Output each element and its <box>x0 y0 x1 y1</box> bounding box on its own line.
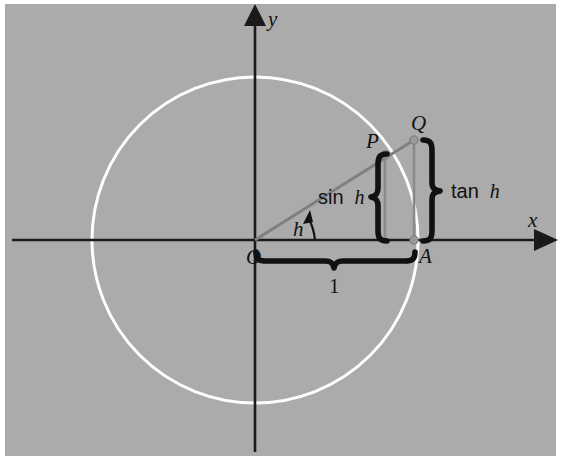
figure-root: y x O A P Q h sin h tan h 1 <box>0 0 572 470</box>
x-axis-label: x <box>527 208 538 232</box>
unit-circle-figure: y x O A P Q h sin h tan h 1 <box>0 0 572 470</box>
point-label-A: A <box>417 244 432 268</box>
point-label-O: O <box>246 245 261 269</box>
radius-length-label: 1 <box>329 274 340 298</box>
tan-function-name: tan <box>451 180 479 202</box>
point-label-P: P <box>365 129 379 153</box>
sin-h-label: sin h <box>318 186 365 208</box>
figure-panel-background <box>5 4 556 456</box>
y-axis-label: y <box>266 7 278 31</box>
point-Q-marker <box>410 136 418 144</box>
point-label-Q: Q <box>411 111 426 135</box>
tan-argument: h <box>490 180 500 202</box>
angle-label-h: h <box>293 217 304 241</box>
point-A-marker <box>410 236 418 244</box>
sin-function-name: sin <box>318 186 344 208</box>
tan-h-label: tan h <box>451 180 500 202</box>
sin-argument: h <box>355 186 365 208</box>
